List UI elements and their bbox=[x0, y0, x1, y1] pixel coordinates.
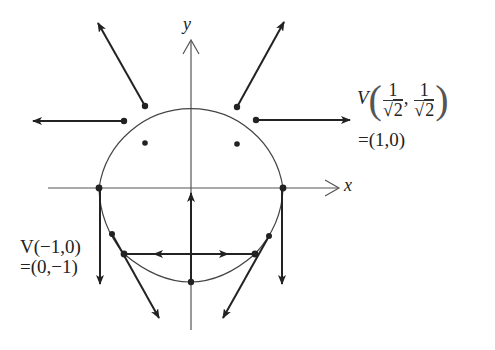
open-paren: ( bbox=[369, 77, 382, 122]
point-inner-left bbox=[142, 140, 148, 146]
point-right-axis bbox=[280, 185, 287, 192]
point-chord-left bbox=[121, 251, 128, 258]
function-v: V bbox=[357, 87, 369, 108]
point-left-axis bbox=[96, 185, 103, 192]
vector-result-left: =(0,−1) bbox=[20, 257, 78, 277]
x-axis bbox=[48, 180, 339, 196]
vector-label-top-right: V(1√2, 1√2) bbox=[357, 80, 449, 120]
point-right-upper bbox=[253, 117, 259, 123]
point-chord-right bbox=[252, 251, 259, 258]
vector-lower-left bbox=[112, 234, 159, 318]
vector-upper-right bbox=[237, 22, 284, 107]
separator: , bbox=[404, 87, 409, 108]
y-axis bbox=[183, 40, 199, 330]
point-lower-left-small bbox=[109, 231, 115, 237]
point-upper-left bbox=[142, 103, 148, 109]
vector-upper-left bbox=[98, 23, 145, 106]
point-lower-right-small bbox=[266, 233, 272, 239]
vector-lower-right bbox=[223, 236, 269, 318]
vector-field-diagram bbox=[0, 0, 495, 350]
y-axis-label: y bbox=[183, 14, 191, 35]
lower-right-arc bbox=[255, 188, 283, 254]
fraction-1: 1√2 bbox=[383, 81, 403, 120]
close-paren: ) bbox=[435, 77, 448, 122]
x-axis-label: x bbox=[344, 175, 352, 196]
vector-result-top-right: =(1,0) bbox=[358, 130, 405, 150]
point-chord-center bbox=[190, 253, 193, 256]
point-left-upper bbox=[121, 118, 127, 124]
lower-left-arc bbox=[99, 188, 124, 254]
point-inner-right bbox=[234, 141, 240, 147]
bottom-arc bbox=[124, 254, 255, 282]
point-bottom bbox=[188, 279, 194, 285]
point-upper-right bbox=[234, 104, 240, 110]
fraction-2: 1√2 bbox=[414, 81, 434, 120]
vector-label-left: V(−1,0) bbox=[20, 237, 81, 257]
